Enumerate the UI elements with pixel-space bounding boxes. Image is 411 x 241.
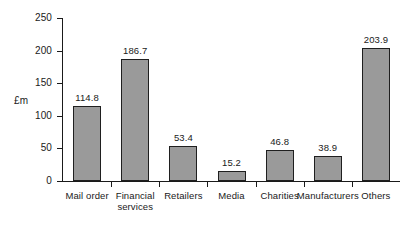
y-axis-tick-label: 100 bbox=[12, 111, 52, 121]
bar-value-label: 53.4 bbox=[174, 133, 193, 143]
y-axis-tick-label: 50 bbox=[12, 143, 52, 153]
y-axis-label: £m bbox=[14, 95, 28, 106]
x-axis-line bbox=[62, 181, 400, 182]
y-axis-tick-label: 200 bbox=[12, 46, 52, 56]
x-axis-tick bbox=[159, 182, 160, 187]
bar-value-label: 46.8 bbox=[270, 137, 289, 147]
bar[interactable] bbox=[121, 59, 149, 181]
bar-value-label: 203.9 bbox=[364, 35, 388, 45]
plot-area: 114.8186.753.415.246.838.9203.9 bbox=[63, 18, 400, 181]
y-axis-tick bbox=[57, 83, 62, 84]
bar-value-label: 114.8 bbox=[75, 93, 99, 103]
bar-value-label: 15.2 bbox=[222, 158, 241, 168]
y-axis-tick bbox=[57, 51, 62, 52]
bar[interactable] bbox=[314, 156, 342, 181]
bar-group[interactable]: 46.8 bbox=[266, 18, 294, 181]
bar-value-label: 186.7 bbox=[123, 46, 147, 56]
bar[interactable] bbox=[362, 48, 390, 181]
bar-group[interactable]: 203.9 bbox=[362, 18, 390, 181]
bar-group[interactable]: 186.7 bbox=[121, 18, 149, 181]
bar-group[interactable]: 15.2 bbox=[218, 18, 246, 181]
y-axis-tick bbox=[57, 116, 62, 117]
bar[interactable] bbox=[266, 150, 294, 181]
x-axis-tick bbox=[111, 182, 112, 187]
x-axis-tick bbox=[256, 182, 257, 187]
bar-value-label: 38.9 bbox=[318, 143, 337, 153]
x-axis-tick bbox=[207, 182, 208, 187]
x-axis-category-label: Others bbox=[344, 190, 408, 201]
y-axis-tick-label: 150 bbox=[12, 78, 52, 88]
y-axis-tick bbox=[57, 18, 62, 19]
bar-chart-figure: £m 250200150100500 114.8186.753.415.246.… bbox=[0, 0, 411, 241]
x-axis-tick bbox=[304, 182, 305, 187]
bar-group[interactable]: 38.9 bbox=[314, 18, 342, 181]
bar[interactable] bbox=[169, 146, 197, 181]
y-axis-tick-label: 250 bbox=[12, 13, 52, 23]
y-axis-tick-label: 0 bbox=[12, 176, 52, 186]
bar-group[interactable]: 114.8 bbox=[73, 18, 101, 181]
x-axis-tick bbox=[352, 182, 353, 187]
bar[interactable] bbox=[73, 106, 101, 181]
y-axis-tick bbox=[57, 148, 62, 149]
bar[interactable] bbox=[218, 171, 246, 181]
bar-group[interactable]: 53.4 bbox=[169, 18, 197, 181]
